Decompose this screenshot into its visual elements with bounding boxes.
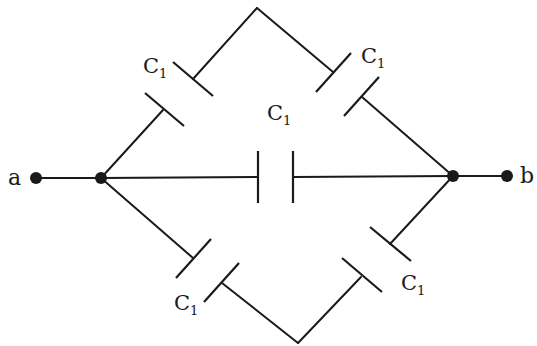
capacitor-label: C1 <box>401 271 425 298</box>
capacitor-plate <box>316 53 351 92</box>
capacitor-upper-right: C1 <box>257 8 453 176</box>
capacitor-circuit-diagram: a b C1 C1 C1 <box>0 0 537 346</box>
wire <box>362 97 453 176</box>
wire <box>293 176 453 177</box>
wire <box>101 178 193 258</box>
capacitor-plate <box>145 93 184 126</box>
capacitor-upper-left: C1 <box>101 8 257 178</box>
capacitor-plate <box>342 258 382 292</box>
terminal-label-b: b <box>520 163 534 188</box>
wire <box>101 177 258 178</box>
capacitor-label: C1 <box>143 54 167 81</box>
capacitor-label: C1 <box>361 44 385 71</box>
wire <box>222 283 298 343</box>
capacitor-center: C1 <box>101 101 453 203</box>
terminal-node-a <box>30 172 42 184</box>
terminal-label-a: a <box>8 165 21 190</box>
wire <box>101 110 163 178</box>
wire <box>390 176 453 244</box>
capacitor-plate <box>176 239 211 278</box>
capacitor-label: C1 <box>267 101 291 128</box>
wire <box>257 8 333 72</box>
terminal-node-b <box>501 170 513 182</box>
capacitor-lower-left: C1 <box>101 178 298 343</box>
wire <box>298 277 361 343</box>
wire <box>193 8 257 79</box>
capacitor-lower-right: C1 <box>298 176 453 343</box>
capacitor-label: C1 <box>174 291 198 318</box>
terminal-b: b <box>453 163 534 188</box>
terminal-a: a <box>8 165 101 190</box>
